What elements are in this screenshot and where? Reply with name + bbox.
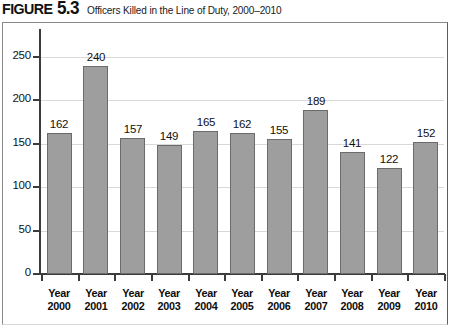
y-axis-tick-label: 50	[1, 223, 31, 235]
bar	[47, 133, 72, 274]
bar	[193, 131, 218, 274]
bar	[157, 145, 182, 274]
x-axis-tick	[188, 274, 190, 281]
bar-value-label: 149	[145, 130, 193, 142]
bar	[83, 66, 108, 274]
figure-label-number: 5.3	[57, 0, 79, 17]
bar	[303, 110, 328, 274]
bar	[230, 133, 255, 274]
y-axis-tick	[33, 186, 41, 188]
bar	[377, 168, 402, 274]
y-axis-tick	[33, 99, 41, 101]
y-axis-tick	[33, 273, 41, 275]
y-axis-tick-label: 0	[1, 266, 31, 278]
bar	[413, 142, 438, 274]
y-axis-tick-label: 150	[1, 136, 31, 148]
bar-value-label: 189	[292, 95, 340, 107]
figure-title-bar: FIGURE 5.3 Officers Killed in the Line o…	[0, 0, 453, 19]
bar-value-label: 152	[402, 127, 450, 139]
x-axis-tick	[41, 274, 43, 281]
x-axis-tick	[261, 274, 263, 281]
y-axis-tick-label: 200	[1, 92, 31, 104]
x-axis-tick	[297, 274, 299, 281]
x-axis-tick	[114, 274, 116, 281]
y-axis-tick-label: 250	[1, 49, 31, 61]
x-axis-tick	[224, 274, 226, 281]
bar	[267, 139, 292, 274]
y-axis-tick	[33, 143, 41, 145]
x-axis-tick	[151, 274, 153, 281]
bar-value-label: 162	[35, 118, 83, 130]
y-axis-line	[39, 29, 41, 275]
x-axis-tick	[444, 274, 446, 281]
figure-container: FIGURE 5.3 Officers Killed in the Line o…	[0, 0, 453, 327]
bar	[340, 152, 365, 274]
x-axis-tick	[371, 274, 373, 281]
y-axis-tick-label: 100	[1, 179, 31, 191]
figure-caption: Officers Killed in the Line of Duty, 200…	[87, 4, 281, 17]
x-axis-tick	[78, 274, 80, 281]
x-axis-tick	[407, 274, 409, 281]
bar-value-label: 155	[255, 124, 303, 136]
bar-value-label: 240	[72, 51, 120, 63]
x-axis-tick	[334, 274, 336, 281]
y-axis-labels: 050100150200250	[0, 0, 31, 327]
y-axis-tick	[33, 56, 41, 58]
bar-value-label: 141	[328, 137, 376, 149]
bar-value-label: 122	[365, 153, 413, 165]
x-axis-category-label: Year2010	[404, 287, 448, 312]
bar	[120, 138, 145, 274]
y-axis-tick	[33, 230, 41, 232]
